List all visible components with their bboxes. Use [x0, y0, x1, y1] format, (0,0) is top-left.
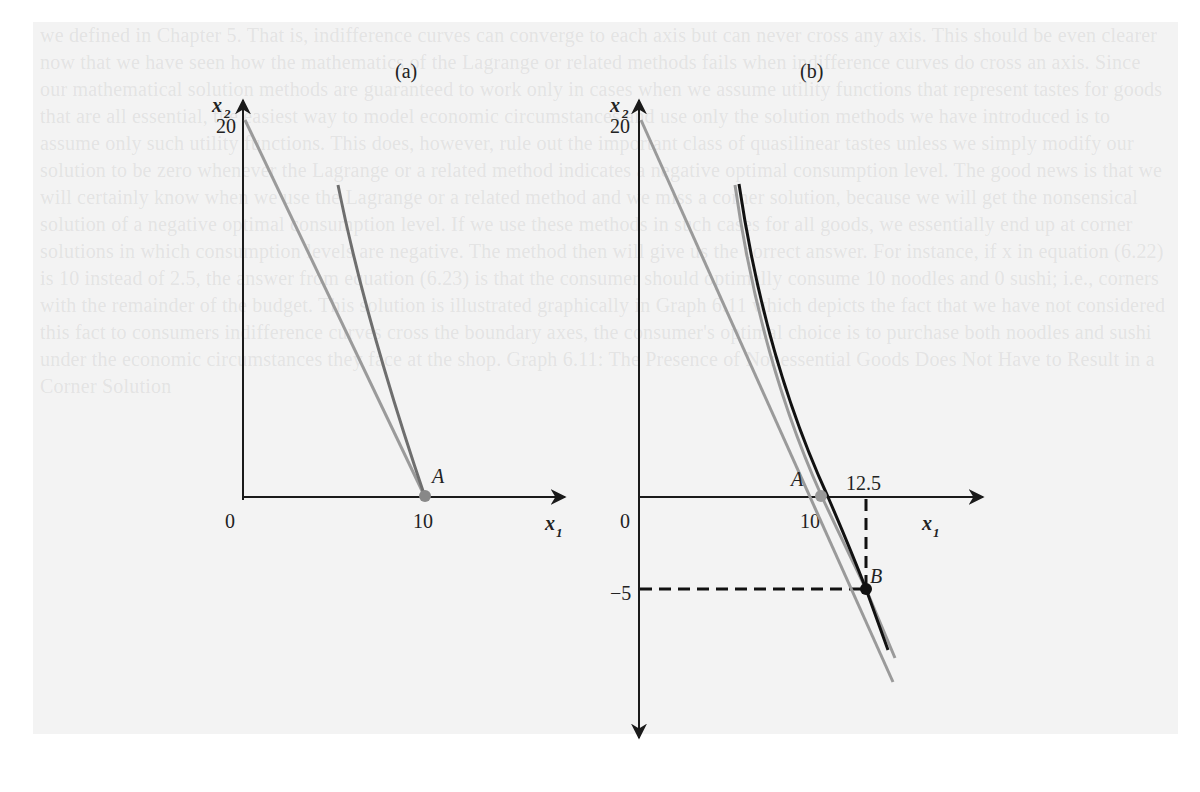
y-axis-label: x: [609, 94, 620, 116]
point-a: [419, 490, 431, 502]
panel-a: (a) x 2 20 0 10 x 1 A: [211, 60, 565, 540]
origin-label: 0: [620, 510, 630, 532]
y-tick-20: 20: [610, 115, 630, 137]
point-a-label: A: [789, 468, 804, 490]
y-tick-20: 20: [216, 115, 236, 137]
x-tick-12-5: 12.5: [846, 472, 881, 494]
point-a-label: A: [430, 465, 445, 487]
x-tick-10: 10: [413, 510, 433, 532]
x-axis-label: x: [921, 512, 932, 534]
budget-line: [245, 120, 425, 497]
panel-b-label: (b): [800, 60, 823, 83]
y-axis-label: x: [211, 94, 222, 116]
panel-b: (b) x 2 20 0 10 12.5 x 1 −5 A B: [609, 60, 983, 738]
x-axis-subscript: 1: [933, 525, 940, 540]
budget-line: [641, 120, 893, 682]
point-b-label: B: [870, 565, 882, 587]
origin-label: 0: [225, 510, 235, 532]
point-a: [815, 490, 827, 502]
panel-a-label: (a): [395, 60, 417, 83]
x-axis-subscript: 1: [556, 525, 563, 540]
figure: (a) x 2 20 0 10 x 1 A (b) x 2 20 0 10 12…: [0, 0, 1200, 792]
y-tick-neg-5: −5: [610, 582, 631, 604]
x-axis-label: x: [544, 512, 555, 534]
